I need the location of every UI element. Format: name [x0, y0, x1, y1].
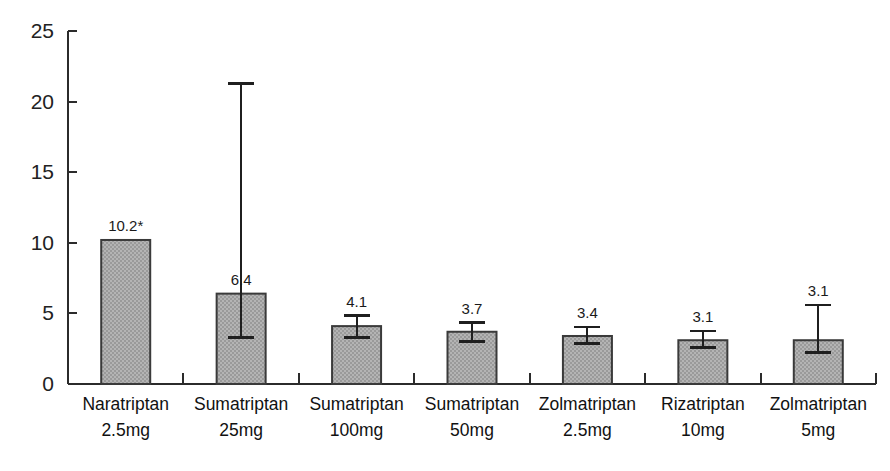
bar-chart-figure: 0510152025 10.2*6.44.13.73.43.13.1 Narat… — [0, 0, 890, 471]
category-label-dose: 2.5mg — [101, 420, 150, 440]
category-label-dose: 5mg — [801, 420, 835, 440]
bar-value-label: 4.1 — [346, 293, 367, 310]
y-tick-label: 20 — [31, 90, 54, 113]
category-label-dose: 2.5mg — [563, 420, 612, 440]
category-label-dose: 25mg — [219, 420, 263, 440]
category-label-dose: 10mg — [681, 420, 725, 440]
y-tick-label: 10 — [31, 231, 54, 254]
y-tick-label: 5 — [42, 301, 54, 324]
category-labels: Naratriptan2.5mgSumatriptan25mgSumatript… — [82, 394, 866, 440]
chart-canvas: 0510152025 10.2*6.44.13.73.43.13.1 Narat… — [0, 0, 890, 471]
category-label-dose: 50mg — [450, 420, 494, 440]
category-label-name: Zolmatriptan — [770, 394, 867, 414]
category-label-name: Sumatriptan — [425, 394, 519, 414]
bar-value-label: 6.4 — [231, 271, 252, 288]
bar-value-label: 3.1 — [692, 308, 713, 325]
bar — [101, 240, 150, 384]
y-tick-label: 0 — [42, 372, 54, 395]
bar-value-label: 3.7 — [462, 300, 483, 317]
bar-value-label: 3.1 — [808, 282, 829, 299]
category-label-name: Naratriptan — [82, 394, 169, 414]
y-tick-label: 25 — [31, 19, 54, 42]
bar-value-label: 10.2* — [108, 217, 143, 234]
category-label-name: Sumatriptan — [309, 394, 403, 414]
category-label-name: Zolmatriptan — [539, 394, 636, 414]
y-tick-label: 15 — [31, 160, 54, 183]
category-label-name: Rizatriptan — [661, 394, 745, 414]
category-label-dose: 100mg — [330, 420, 384, 440]
bar-value-label: 3.4 — [577, 304, 598, 321]
y-axis: 0510152025 — [31, 19, 77, 395]
category-label-name: Sumatriptan — [194, 394, 288, 414]
error-bars-series — [228, 83, 831, 352]
